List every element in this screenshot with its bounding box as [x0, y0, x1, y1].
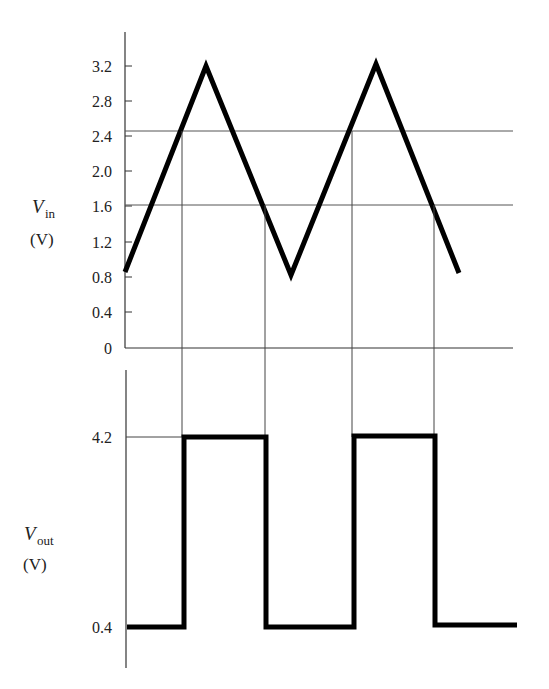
vin-y-tick-labels: 3.2 2.8 2.4 2.0 1.6 1.2 0.8 0.4 0 [92, 58, 112, 357]
vout-tick-label-low: 0.4 [92, 619, 112, 636]
vout-axis-title: V out (V) [23, 523, 54, 574]
vin-tick-label: 0.4 [92, 304, 112, 321]
vin-y-ticks [125, 66, 132, 312]
vin-tick-label: 3.2 [92, 58, 112, 75]
vin-triangle-wave [125, 64, 459, 275]
transition-markers [182, 131, 434, 437]
vin-tick-label: 0 [104, 340, 112, 357]
vout-square-wave [127, 436, 517, 627]
vout-axis-title-unit: (V) [23, 555, 47, 574]
vin-tick-label: 0.8 [92, 269, 112, 286]
vin-axis-title-main: V [32, 196, 46, 217]
vin-tick-label: 2.4 [92, 128, 112, 145]
vin-tick-label: 1.6 [92, 198, 112, 215]
vin-tick-label: 1.2 [92, 234, 112, 251]
vin-tick-label: 2.0 [92, 163, 112, 180]
vin-axis-title-sub: in [45, 206, 56, 221]
vin-panel: 3.2 2.8 2.4 2.0 1.6 1.2 0.8 0.4 0 V in (… [30, 32, 513, 357]
vin-axis-title-unit: (V) [30, 230, 54, 249]
vin-tick-label: 2.8 [92, 93, 112, 110]
comparator-waveform-chart: 3.2 2.8 2.4 2.0 1.6 1.2 0.8 0.4 0 V in (… [0, 0, 549, 689]
vin-axis-title: V in (V) [30, 196, 56, 249]
vout-axis-title-sub: out [37, 533, 54, 548]
vout-axis-title-main: V [24, 523, 38, 544]
vout-tick-label-high: 4.2 [92, 429, 112, 446]
vout-panel: 4.2 0.4 V out (V) [23, 370, 517, 668]
